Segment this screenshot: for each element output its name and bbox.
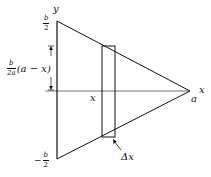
bottom-vertex-label: − b 2 <box>34 152 49 169</box>
x-axis-label: x <box>199 85 205 95</box>
half-height-numerator: b <box>8 60 14 67</box>
y-axis-label: y <box>53 4 59 14</box>
half-height-denominator: 2a <box>7 70 16 77</box>
strip-width-pointer-arrow <box>113 139 121 150</box>
half-height-fraction: b 2a <box>7 60 16 77</box>
apex-label: a <box>191 94 197 104</box>
bottom-label-denominator: 2 <box>44 162 48 169</box>
bottom-label-fraction: b 2 <box>43 152 49 169</box>
bottom-label-sign: − <box>34 156 42 165</box>
strip-rectangle <box>102 46 115 137</box>
half-height-expression: (a − x) <box>17 64 51 74</box>
top-label-denominator: 2 <box>44 25 48 32</box>
top-label-numerator: b <box>43 15 49 22</box>
triangle-diagram <box>0 0 211 177</box>
bottom-label-numerator: b <box>43 152 49 159</box>
top-vertex-label: b 2 <box>43 15 49 32</box>
strip-width-label: Δx <box>121 152 134 162</box>
triangle-upper-edge <box>57 21 190 91</box>
strip-position-label: x <box>90 93 96 103</box>
triangle-lower-edge <box>57 91 190 159</box>
half-height-label: b 2a (a − x) <box>7 60 51 77</box>
